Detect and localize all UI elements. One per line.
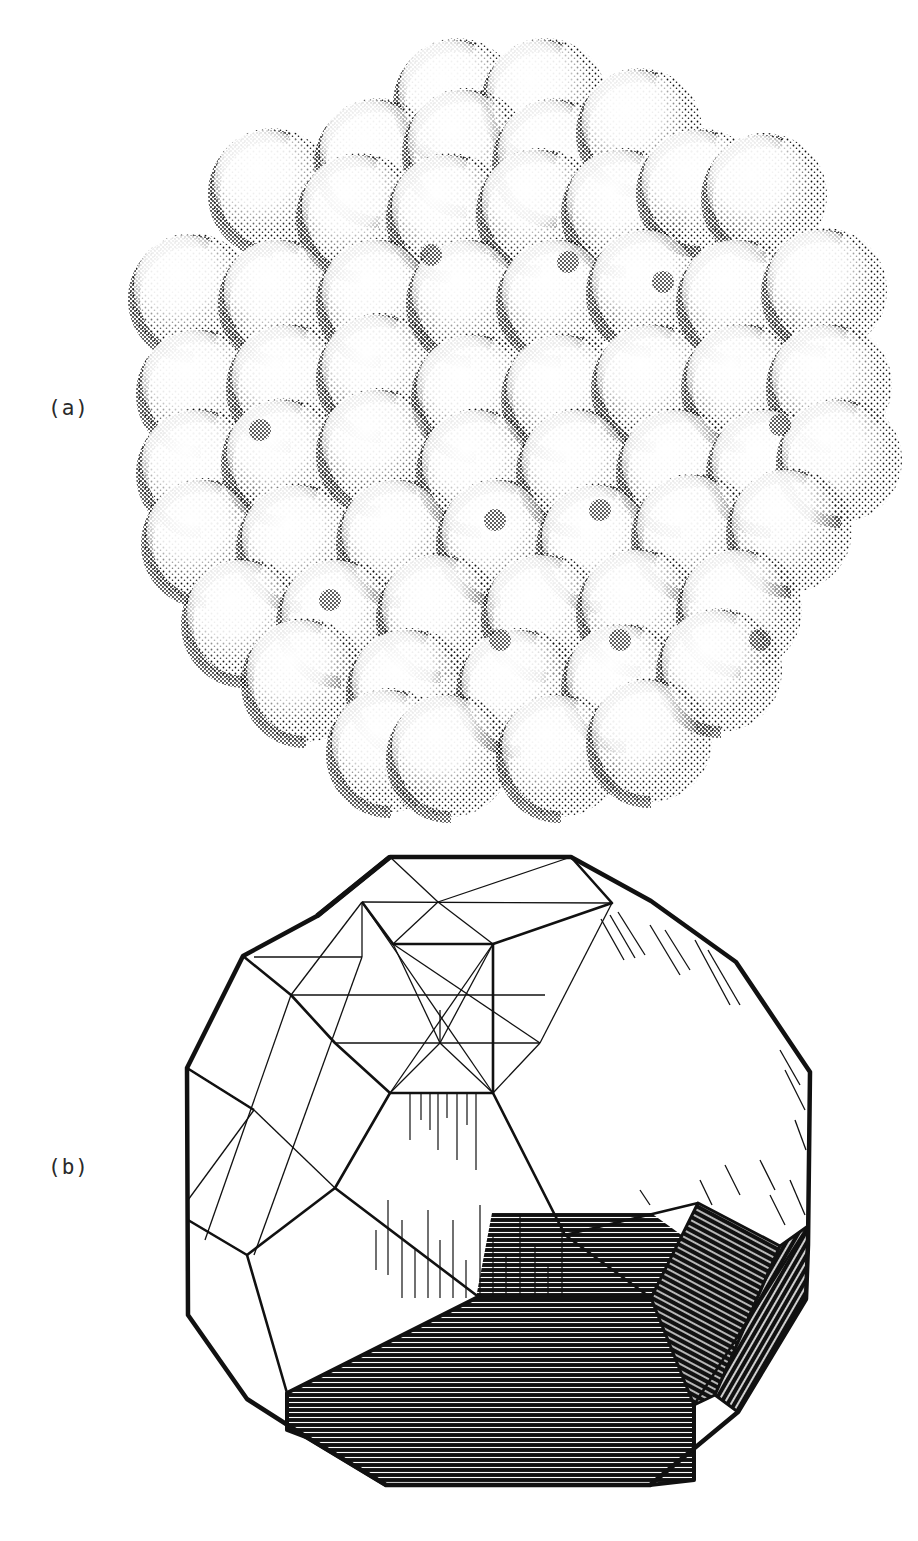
- right-facet-hatching: [601, 912, 806, 1225]
- sphere-cluster: [130, 38, 902, 817]
- figure-canvas: [0, 0, 918, 1541]
- construction-lines: [187, 857, 612, 1255]
- polyhedron: [187, 857, 810, 1485]
- outline-accent: [317, 857, 390, 916]
